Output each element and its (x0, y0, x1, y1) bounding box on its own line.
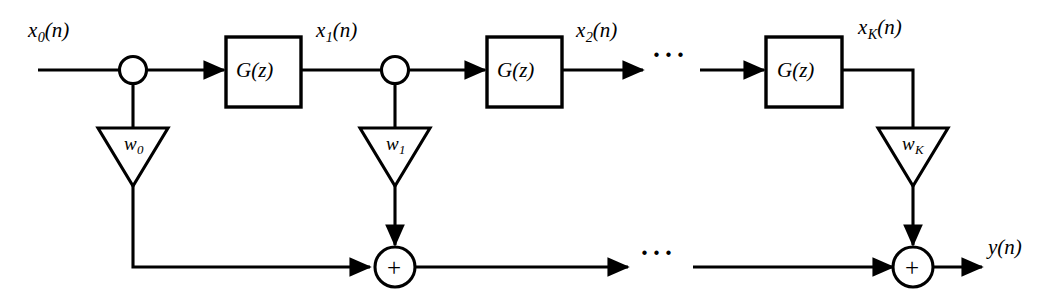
block-label-g3: G(z) (777, 60, 814, 81)
signal-label-xK: xK(n) (858, 17, 902, 41)
ellipsis-bottom: ··· (640, 240, 676, 267)
adder-operator-2: + (905, 255, 919, 280)
signal-label-x1: x1(n) (316, 20, 357, 44)
diagram-vector-layer (0, 0, 1044, 304)
block-label-g2: G(z) (497, 60, 534, 81)
tap-node-1 (382, 57, 409, 84)
signal-label-x0: x0(n) (28, 20, 69, 44)
ellipsis-top: ··· (652, 42, 688, 69)
weight-label-wK: wK (902, 134, 924, 157)
wire-w0-to-sum1 (133, 186, 370, 267)
signal-label-x2: x2(n) (576, 20, 617, 44)
signal-label-y: y(n) (988, 237, 1022, 258)
tap-node-0 (120, 57, 147, 84)
wire-g3-to-wK (842, 70, 913, 128)
block-diagram-canvas: x0(n) x1(n) x2(n) xK(n) y(n) G(z) G(z) G… (0, 0, 1044, 304)
weight-label-w1: w1 (386, 134, 406, 157)
adder-operator-1: + (387, 255, 401, 280)
weight-label-w0: w0 (124, 134, 144, 157)
block-label-g1: G(z) (236, 60, 273, 81)
